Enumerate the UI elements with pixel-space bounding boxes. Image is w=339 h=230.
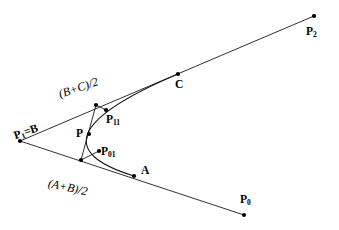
label-p0: P0 [240, 194, 251, 206]
point-p [87, 132, 91, 136]
label-p01: P01 [101, 146, 116, 158]
label-p2: P2 [306, 26, 317, 38]
label-p0-base: P [240, 193, 247, 205]
point-a [132, 174, 136, 178]
label-p01-sub: 01 [108, 150, 116, 159]
figure-canvas [0, 0, 339, 230]
label-p11-sub: 11 [113, 118, 120, 127]
bezier-subdivision-figure: P2 C (B+C)/2 P11 P1=B P P01 (A+B)/2 A P0 [0, 0, 339, 230]
label-p11-base: P [106, 113, 113, 125]
point-mid-bc [94, 103, 98, 107]
label-p2-sub: 2 [313, 30, 317, 39]
label-p0-sub: 0 [247, 198, 251, 207]
point-c [176, 72, 180, 76]
label-p01-base: P [101, 145, 108, 157]
bezier-curve-abc [86, 74, 178, 176]
point-p11 [104, 108, 108, 112]
label-p2-base: P [306, 25, 313, 37]
point-p0 [242, 213, 246, 217]
label-a: A [141, 165, 149, 177]
label-p: P [76, 128, 83, 140]
point-mid-ab [79, 158, 83, 162]
point-p2 [312, 14, 316, 18]
label-p11: P11 [106, 114, 120, 126]
label-c: C [175, 79, 183, 91]
